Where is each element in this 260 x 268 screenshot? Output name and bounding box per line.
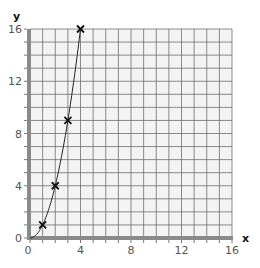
x-tick-labels: 0481216 (25, 244, 240, 257)
y-axis (27, 29, 31, 240)
x-tick-label: 16 (225, 244, 239, 257)
y-tick-label: 4 (15, 180, 22, 193)
x-tick-label: 0 (25, 244, 32, 257)
x-axis-label: x (242, 232, 249, 245)
x-tick-label: 4 (77, 244, 84, 257)
y-tick-label: 0 (15, 232, 22, 245)
y-tick-label: 8 (15, 128, 22, 141)
chart: 0481216 0481216 y x (0, 0, 260, 268)
x-tick-label: 8 (128, 244, 135, 257)
x-tick-label: 12 (175, 244, 189, 257)
y-tick-label: 16 (8, 23, 22, 36)
y-tick-labels: 0481216 (8, 23, 22, 245)
y-tick-label: 12 (8, 75, 22, 88)
x-axis (27, 236, 233, 240)
y-axis-label: y (13, 10, 20, 23)
